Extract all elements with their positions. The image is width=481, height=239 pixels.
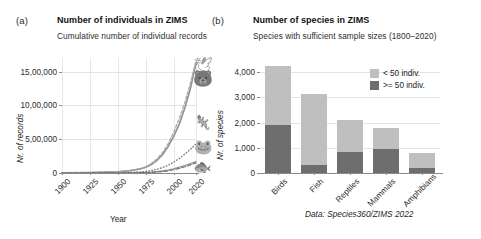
mammal-icon: 🐻 bbox=[193, 71, 213, 87]
bar-chart-y-axis-title: Nr. of species bbox=[216, 110, 225, 160]
bar-amphibians[interactable] bbox=[409, 153, 434, 173]
bar-y-tick-label-0: 0 bbox=[212, 169, 255, 178]
bar-y-tick-label-3000: 3,000 bbox=[212, 93, 255, 102]
bar-y-tick-label-4000: 4,000 bbox=[212, 68, 255, 77]
bar-fish[interactable] bbox=[301, 94, 326, 173]
bar-segment-gte50-reptiles bbox=[337, 152, 362, 173]
x-tick-label-1950: 1950 bbox=[101, 177, 129, 205]
bar-x-tick-mark-mammals bbox=[386, 173, 387, 175]
bar-x-tick-label-mammals: Mammals bbox=[366, 177, 398, 209]
panel-a-tag: (a) bbox=[16, 15, 28, 26]
bar-y-tick-mark-2000 bbox=[257, 123, 260, 124]
legend-row-gte50[interactable]: >= 50 indiv. bbox=[370, 80, 425, 91]
bar-segment-lt50-fish bbox=[301, 94, 326, 166]
bar-x-tick-mark-reptiles bbox=[350, 173, 351, 175]
line-chart-y-axis-title: Nr. of records bbox=[16, 114, 25, 163]
bar-segment-lt50-mammals bbox=[373, 128, 398, 149]
bar-segment-gte50-birds bbox=[265, 125, 290, 173]
legend-label-gte50: >= 50 indiv. bbox=[383, 81, 425, 90]
line-series-birds bbox=[62, 63, 196, 172]
legend-swatch-gte50 bbox=[370, 81, 379, 90]
figure-root: (a) Number of individuals in ZIMS Cumula… bbox=[0, 0, 481, 239]
bar-x-tick-label-birds: Birds bbox=[258, 177, 290, 209]
y-tick-mark-1500000 bbox=[59, 72, 62, 73]
panel-a-title: Number of individuals in ZIMS bbox=[57, 15, 187, 25]
bar-y-tick-mark-3000 bbox=[257, 97, 260, 98]
x-tick-mark-2000 bbox=[174, 173, 175, 175]
legend-row-lt50[interactable]: < 50 indiv. bbox=[370, 68, 425, 79]
x-tick-mark-1900 bbox=[62, 173, 63, 175]
y-tick-label-1500000: 15,00,000 bbox=[0, 67, 57, 76]
bar-segment-gte50-mammals bbox=[373, 149, 398, 173]
x-tick-mark-1925 bbox=[90, 173, 91, 175]
x-tick-label-1900: 1900 bbox=[45, 177, 73, 205]
bar-y-tick-mark-4000 bbox=[257, 72, 260, 73]
bar-x-axis-line bbox=[260, 173, 443, 174]
x-tick-mark-1975 bbox=[146, 173, 147, 175]
x-tick-label-1975: 1975 bbox=[129, 177, 157, 205]
fish-icon: 🐟 bbox=[193, 159, 212, 174]
bar-birds[interactable] bbox=[265, 66, 290, 173]
bar-y-tick-mark-1000 bbox=[257, 148, 260, 149]
panel-b-title: Number of species in ZIMS bbox=[253, 15, 369, 25]
source-note: Data: Species360/ZIMS 2022 bbox=[305, 209, 413, 219]
reptile-icon: 🦎 bbox=[194, 115, 211, 129]
panel-a: (a) Number of individuals in ZIMS Cumula… bbox=[0, 0, 212, 239]
bar-segment-lt50-birds bbox=[265, 66, 290, 125]
bar-x-tick-label-amphibians: Amphibians bbox=[402, 177, 434, 209]
bar-x-tick-mark-fish bbox=[314, 173, 315, 175]
bar-segment-gte50-fish bbox=[301, 165, 326, 173]
bar-x-tick-mark-amphibians bbox=[422, 173, 423, 175]
bar-chart-legend: < 50 indiv. >= 50 indiv. bbox=[370, 68, 425, 92]
line-chart-plot-area bbox=[62, 58, 196, 173]
line-chart-x-axis-title: Year bbox=[110, 215, 127, 224]
y-tick-label-1000000: 10,00,000 bbox=[0, 101, 57, 110]
x-tick-label-1925: 1925 bbox=[73, 177, 101, 205]
bar-segment-lt50-amphibians bbox=[409, 153, 434, 168]
bar-reptiles[interactable] bbox=[337, 120, 362, 173]
panel-a-subtitle: Cumulative number of individual records bbox=[57, 31, 207, 41]
y-tick-mark-500000 bbox=[59, 139, 62, 140]
y-tick-label-500000: 5,00,000 bbox=[0, 135, 57, 144]
x-axis-line bbox=[62, 173, 199, 174]
panel-b-subtitle: Species with sufficient sample sizes (18… bbox=[253, 31, 437, 41]
x-tick-mark-1950 bbox=[118, 173, 119, 175]
bar-mammals[interactable] bbox=[373, 128, 398, 173]
amphibian-icon: 🐸 bbox=[194, 139, 213, 154]
bar-x-tick-label-reptiles: Reptiles bbox=[330, 177, 362, 209]
legend-swatch-lt50 bbox=[370, 69, 379, 78]
bar-segment-lt50-reptiles bbox=[337, 120, 362, 152]
line-series-mammals bbox=[62, 61, 196, 173]
bar-x-tick-label-fish: Fish bbox=[294, 177, 326, 209]
bar-y-tick-mark-0 bbox=[257, 173, 260, 174]
legend-label-lt50: < 50 indiv. bbox=[383, 69, 420, 78]
y-tick-mark-1000000 bbox=[59, 105, 62, 106]
y-tick-label-0: 0 bbox=[0, 169, 57, 178]
line-chart-svg bbox=[62, 58, 196, 173]
panel-b: (b) Number of species in ZIMS Species wi… bbox=[212, 0, 481, 239]
bar-x-tick-mark-birds bbox=[278, 173, 279, 175]
x-tick-label-2000: 2000 bbox=[156, 177, 184, 205]
panel-b-tag: (b) bbox=[212, 15, 224, 26]
